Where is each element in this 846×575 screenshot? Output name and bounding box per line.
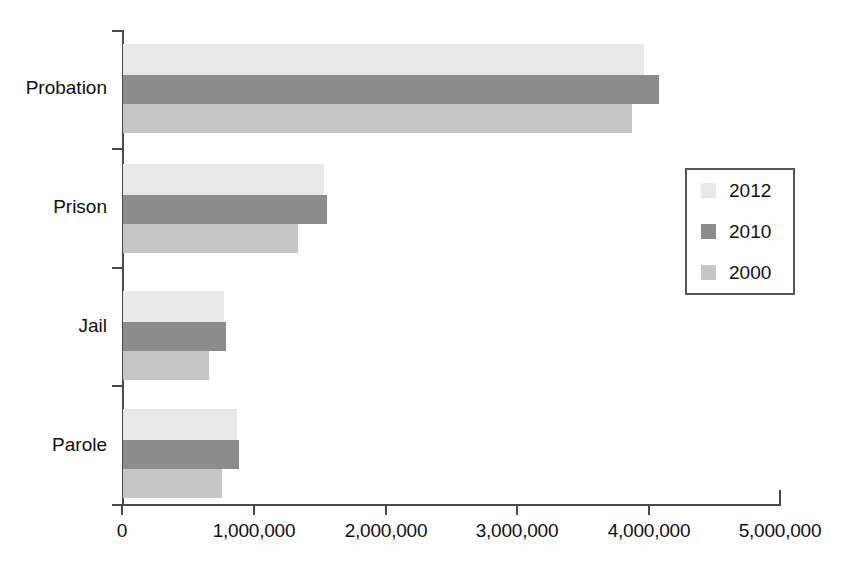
x-axis-tick-label-3: 3,000,000 [476,520,559,542]
bar-chart: Probation Prison Jail Parole 0 1,000,000… [0,0,846,575]
legend: 2012 2010 2000 [685,168,795,295]
legend-item-2012: 2012 [701,181,771,200]
bar-jail-2012 [123,291,224,322]
bar-probation-2012 [123,44,644,75]
plot-area: Probation Prison Jail Parole 0 1,000,000… [0,0,846,575]
bar-parole-2012 [123,409,237,440]
x-axis-tick-label-1: 1,000,000 [213,520,296,542]
bar-parole-2000 [123,469,222,498]
y-axis-category-label-probation: Probation [26,77,107,99]
y-axis-category-label-jail: Jail [78,315,107,337]
y-axis-tick [112,30,123,32]
x-axis-tick-label-0: 0 [117,520,127,542]
legend-swatch-icon-2010 [701,224,716,239]
bar-probation-2000 [123,104,632,133]
legend-label-2000: 2000 [729,263,771,282]
bar-jail-2000 [123,351,209,380]
x-axis-tick-label-2: 2,000,000 [345,520,428,542]
x-axis-tick [385,505,387,515]
x-axis-tick [516,505,518,515]
y-axis-tick [112,267,123,269]
x-axis-tick [121,505,123,515]
legend-label-2010: 2010 [729,222,771,241]
x-axis-tick [779,490,781,506]
legend-swatch-icon-2000 [701,265,716,280]
x-axis-tick [648,505,650,515]
legend-swatch-icon-2012 [701,183,716,198]
x-axis-tick [253,505,255,515]
bar-parole-2010 [123,440,239,469]
legend-label-2012: 2012 [729,181,771,200]
x-axis-tick-label-5: 5,000,000 [739,520,822,542]
bar-jail-2010 [123,322,226,351]
legend-item-2010: 2010 [701,222,771,241]
bar-prison-2012 [123,164,324,195]
bar-prison-2000 [123,224,298,253]
x-axis-line [122,504,781,506]
y-axis-category-label-prison: Prison [53,196,107,218]
y-axis-tick [112,148,123,150]
y-axis-tick [112,385,123,387]
bar-prison-2010 [123,195,327,224]
figure-caption [8,556,846,575]
legend-item-2000: 2000 [701,263,771,282]
x-axis-tick-label-4: 4,000,000 [608,520,691,542]
bar-probation-2010 [123,75,659,104]
y-axis-category-label-parole: Parole [52,434,107,456]
